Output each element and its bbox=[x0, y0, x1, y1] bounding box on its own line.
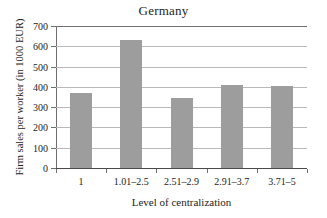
bar bbox=[221, 85, 243, 168]
x-tick-label: 1 bbox=[79, 176, 84, 187]
x-tick-label: 1.01–2.5 bbox=[114, 176, 149, 187]
x-tick-label: 2.91–3.7 bbox=[214, 176, 249, 187]
y-tick-label-700: 700 bbox=[0, 21, 48, 32]
y-tick-label-600: 600 bbox=[0, 41, 48, 52]
y-tick-label-300: 300 bbox=[0, 102, 48, 113]
x-tick-mark-1 bbox=[106, 169, 107, 173]
bar bbox=[70, 93, 92, 168]
bar bbox=[271, 86, 293, 168]
bar bbox=[171, 98, 193, 168]
gridline-700 bbox=[56, 26, 307, 27]
x-tick-mark-4 bbox=[257, 169, 258, 173]
plot-area bbox=[56, 26, 307, 168]
gridline-400 bbox=[56, 87, 307, 88]
x-axis-title: Level of centralization bbox=[56, 196, 307, 208]
gridline-500 bbox=[56, 67, 307, 68]
chart-title: Germany bbox=[0, 3, 327, 19]
x-tick-label: 2.51–2.9 bbox=[164, 176, 199, 187]
x-tick-mark-3 bbox=[207, 169, 208, 173]
y-tick-label-100: 100 bbox=[0, 142, 48, 153]
chart-figure: Germany Firm sales per worker (in 1000 E… bbox=[0, 0, 327, 218]
x-tick-mark-0 bbox=[56, 169, 57, 173]
x-tick-label: 3.71–5 bbox=[268, 176, 296, 187]
gridline-600 bbox=[56, 46, 307, 47]
x-tick-mark-5 bbox=[307, 169, 308, 173]
y-tick-label-0: 0 bbox=[0, 163, 48, 174]
y-tick-label-200: 200 bbox=[0, 122, 48, 133]
y-tick-label-400: 400 bbox=[0, 81, 48, 92]
y-tick-label-500: 500 bbox=[0, 61, 48, 72]
gridline-0 bbox=[56, 168, 307, 169]
bar bbox=[120, 40, 142, 168]
x-tick-mark-2 bbox=[156, 169, 157, 173]
